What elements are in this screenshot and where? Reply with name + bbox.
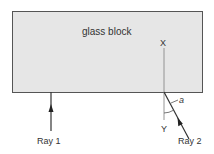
normal-top-label-x: X — [160, 38, 166, 48]
angle-label-a: a — [179, 95, 184, 105]
angle-arc — [164, 110, 174, 113]
ray-1-label: Ray 1 — [37, 136, 61, 146]
glass-block-label: glass block — [82, 27, 131, 37]
normal-bottom-label-y: Y — [161, 124, 167, 134]
ray-2-label: Ray 2 — [178, 136, 202, 146]
ray-1-arrowhead-icon — [49, 104, 54, 112]
angle-leader-line — [171, 100, 178, 103]
ray-2-line — [164, 92, 189, 139]
diagram-canvas — [0, 0, 214, 154]
glass-block — [13, 12, 203, 93]
